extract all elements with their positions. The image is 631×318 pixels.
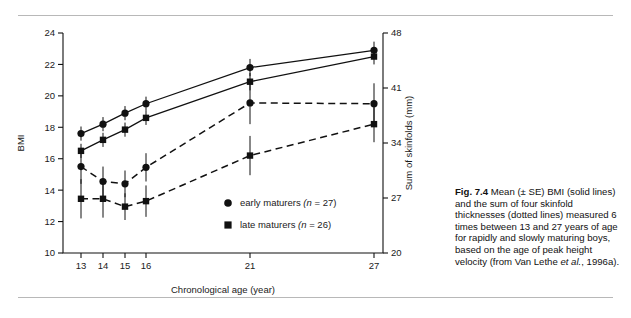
y-tick-label: 18	[44, 122, 55, 133]
caption-body-1: Mean (± SE) BMI (solid lines) and the su…	[455, 186, 618, 267]
data-point-square	[100, 137, 106, 143]
figure-page: 131415162127 1012141618202224 2027344148…	[0, 0, 631, 318]
data-point-circle	[99, 121, 106, 128]
series-line	[81, 50, 374, 133]
bmi-skinfold-line-chart: 131415162127 1012141618202224 2027344148…	[0, 16, 420, 296]
y-tick-label: 16	[44, 153, 55, 164]
y-tick-label: 22	[44, 59, 55, 70]
y2-axis-title: Sum of skinfolds (mm)	[403, 96, 414, 191]
data-point-square	[78, 196, 84, 202]
x-tick-label: 21	[245, 260, 256, 271]
y-axis-title: BMI	[15, 135, 26, 152]
data-point-circle	[121, 110, 128, 117]
data-point-square	[371, 53, 377, 59]
data-series-group	[77, 42, 377, 220]
y-tick-label: 20	[44, 90, 55, 101]
legend-marker-square	[224, 221, 231, 228]
legend-marker-circle	[224, 199, 232, 207]
data-point-square	[247, 152, 253, 158]
y-tick-label: 24	[44, 27, 55, 38]
caption-body-2: , 1996a).	[581, 256, 619, 267]
x-axis-title: Chronological age (year)	[171, 284, 275, 295]
legend-label: early maturers (n = 27)	[240, 197, 336, 208]
data-point-square	[371, 121, 377, 127]
y2-tick-label: 20	[391, 247, 402, 258]
x-tick-label: 15	[120, 260, 131, 271]
y2-tick-label: 48	[391, 27, 402, 38]
x-tick-label: 16	[141, 260, 152, 271]
bottom-divider-rule	[18, 297, 613, 298]
data-point-square	[100, 196, 106, 202]
data-point-square	[122, 203, 128, 209]
y2-tick-label: 41	[391, 82, 402, 93]
y-axis-right-ticks: 2027344148	[383, 27, 402, 258]
figure-caption: Fig. 7.4 Mean (± SE) BMI (solid lines) a…	[455, 186, 623, 267]
y-tick-label: 10	[44, 247, 55, 258]
chart-legend: early maturers (n = 27)late maturers (n …	[224, 197, 336, 230]
y-axis-left-ticks: 1012141618202224	[44, 27, 63, 258]
y2-tick-label: 27	[391, 192, 402, 203]
data-point-circle	[77, 163, 84, 170]
x-axis-ticks: 131415162127	[76, 253, 380, 271]
data-point-circle	[77, 130, 84, 137]
y-tick-label: 14	[44, 185, 55, 196]
data-point-square	[143, 198, 149, 204]
caption-italic: et al.	[560, 256, 581, 267]
data-point-circle	[121, 180, 128, 187]
legend-label: late maturers (n = 26)	[240, 219, 331, 230]
axis-lines	[63, 33, 383, 253]
data-point-circle	[142, 100, 149, 107]
y2-tick-label: 34	[391, 137, 402, 148]
y-tick-label: 12	[44, 216, 55, 227]
caption-label: Fig. 7.4	[455, 186, 488, 197]
data-point-square	[122, 126, 128, 132]
data-point-square	[143, 115, 149, 121]
x-tick-label: 14	[98, 260, 109, 271]
data-point-circle	[246, 99, 253, 106]
data-point-circle	[246, 64, 253, 71]
x-tick-label: 13	[76, 260, 87, 271]
data-point-circle	[142, 164, 149, 171]
chart-figure: 131415162127 1012141618202224 2027344148…	[0, 16, 420, 296]
x-tick-label: 27	[369, 260, 380, 271]
